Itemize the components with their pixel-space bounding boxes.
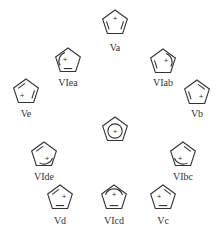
structure-label: VIde (34, 171, 55, 182)
charge-plus: + (113, 14, 118, 23)
structure-label: Vc (157, 215, 169, 226)
charge-plus: + (113, 127, 118, 136)
charge-plus: + (164, 56, 169, 65)
structure-label: Va (110, 42, 121, 53)
structure-VIab: +VIab (151, 49, 176, 88)
structure-Vc: +Vc (151, 185, 176, 226)
structure-label: VIab (153, 77, 173, 88)
structure-Vb: +Vb (185, 80, 210, 119)
structure-label: VIcd (104, 215, 124, 226)
charge-plus: + (62, 192, 67, 201)
structure-center-delocalized: + (103, 117, 128, 141)
structure-Vd: +Vd (48, 185, 73, 226)
structure-Ve: +Ve (14, 79, 39, 119)
charge-plus: + (157, 192, 162, 201)
structure-label: Vb (191, 108, 203, 119)
structure-Va: +Va (103, 10, 128, 53)
resonance-diagram: ++Va+VIea+VIab+Ve+Vb+VIde+VIbc+Vd+VIcd+V… (0, 0, 222, 238)
charge-plus: + (178, 154, 183, 163)
charge-plus: + (20, 91, 25, 100)
structure-VIcd: +VIcd (102, 185, 127, 226)
structure-VIde: +VIde (32, 142, 57, 182)
structure-VIea: +VIea (56, 48, 81, 88)
charge-plus: + (199, 92, 204, 101)
charge-plus: + (112, 190, 117, 199)
structure-label: Ve (21, 108, 32, 119)
charge-plus: + (63, 55, 68, 64)
structure-VIbc: +VIbc (171, 142, 196, 182)
charge-plus: + (45, 154, 50, 163)
structure-label: VIbc (173, 171, 194, 182)
structure-label: Vd (54, 215, 66, 226)
structure-label: VIea (58, 77, 78, 88)
